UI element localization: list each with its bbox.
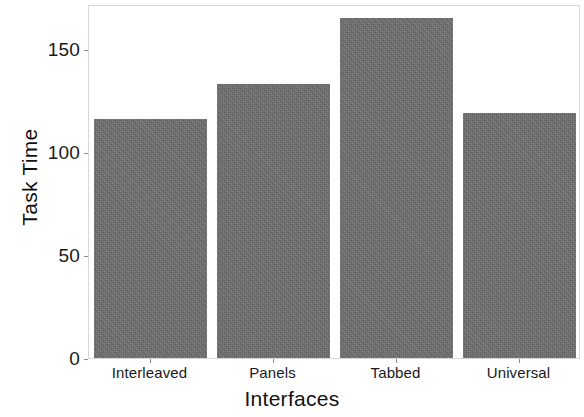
- y-axis-tick-label: 0: [69, 348, 80, 370]
- y-axis-tick-label: 100: [48, 142, 80, 164]
- x-axis-tick-label: Interleaved: [112, 364, 187, 381]
- bar-chart-figure: 050100150 InterleavedPanelsTabbedUnivers…: [0, 0, 584, 417]
- plot-panel: [88, 5, 580, 359]
- bar: [217, 84, 330, 358]
- x-axis-tick-mark: [150, 359, 151, 363]
- x-axis-tick-label: Tabbed: [371, 364, 421, 381]
- x-axis-tick-label: Universal: [487, 364, 550, 381]
- bar: [340, 18, 453, 358]
- x-axis-tick-label: Panels: [249, 364, 295, 381]
- bar: [463, 113, 576, 358]
- y-axis-tick-mark: [84, 256, 88, 257]
- x-axis-title: Interfaces: [0, 387, 584, 411]
- y-axis-tick-label: 150: [48, 39, 80, 61]
- y-axis-tick-mark: [84, 50, 88, 51]
- x-axis-tick-mark: [273, 359, 274, 363]
- y-axis-tick-label: 50: [58, 245, 80, 267]
- y-axis-title: Task Time: [18, 87, 42, 267]
- x-axis-tick-mark: [519, 359, 520, 363]
- y-axis-tick-mark: [84, 153, 88, 154]
- y-axis-tick-mark: [84, 359, 88, 360]
- bar: [94, 119, 207, 358]
- x-axis-tick-mark: [396, 359, 397, 363]
